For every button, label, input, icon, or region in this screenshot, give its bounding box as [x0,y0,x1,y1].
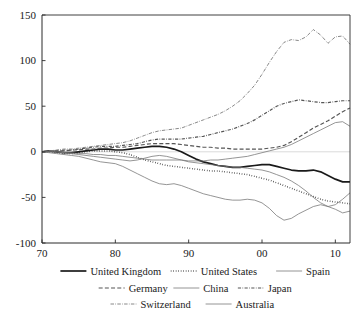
x-tick-label: 10 [330,247,342,259]
y-tick-label: 100 [20,54,37,66]
legend-label-spain: Spain [306,266,331,277]
y-tick-label: -50 [21,191,36,203]
legend-label-china: China [203,283,228,294]
legend-label-australia: Australia [236,299,275,310]
y-tick-label: 50 [25,100,37,112]
x-tick-label: 80 [110,247,122,259]
legend-label-germany: Germany [129,283,169,294]
chart-figure: 7080900010 150100500-50-100 United Kingd… [0,0,363,321]
legend-label-united-kingdom: United Kingdom [90,266,161,277]
legend-label-japan: Japan [268,283,293,294]
legend-label-switzerland: Switzerland [141,299,192,310]
x-tick-label: 90 [183,247,195,259]
line-chart: 7080900010 150100500-50-100 United Kingd… [0,0,363,321]
y-tick-label: 150 [20,9,37,21]
x-tick-label: 00 [257,247,269,259]
x-tick-label: 70 [37,247,49,259]
legend-label-united-states: United States [201,266,257,277]
y-tick-label: 0 [31,145,37,157]
y-tick-label: -100 [16,237,37,249]
